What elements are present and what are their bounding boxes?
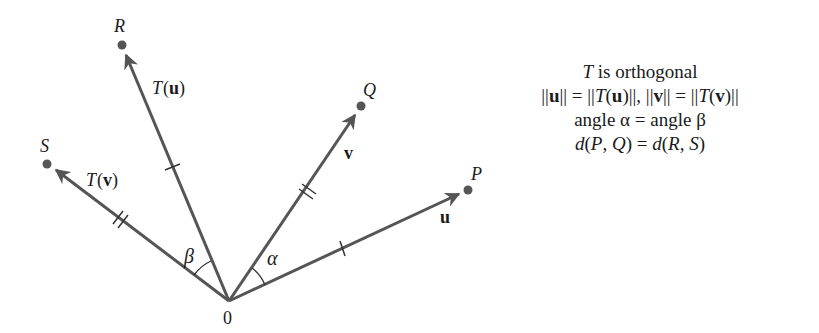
label-alpha: α (267, 247, 278, 269)
label-u: u (440, 207, 450, 227)
label-beta: β (183, 245, 194, 268)
point-Q (357, 102, 366, 111)
caption-line-4: d(P, Q) = d(R, S) (490, 132, 790, 156)
caption-line-3: angle α = angle β (490, 108, 790, 132)
tick-marks (113, 164, 345, 256)
label-v: v (344, 143, 353, 163)
angle-beta-arc (194, 261, 211, 275)
label-S: S (40, 136, 49, 156)
label-origin: 0 (223, 308, 232, 328)
label-T-v: T(v) (86, 170, 118, 191)
label-T-u: T(u) (152, 78, 185, 99)
caption-T: T (582, 61, 593, 82)
point-P (464, 186, 473, 195)
point-S (43, 160, 52, 169)
vector-diagram: P Q R S 0 u v T(u) T(v) β α (0, 0, 819, 333)
point-R (118, 41, 127, 50)
caption-line-1: T is orthogonal (490, 60, 790, 84)
caption-line-2: ||u|| = ||T(u)||, ||v|| = ||T(v)|| (490, 84, 790, 108)
label-P: P (470, 164, 482, 184)
label-R: R (113, 16, 125, 36)
label-Q: Q (363, 80, 376, 100)
angle-alpha-arc (252, 268, 265, 285)
caption-block: T is orthogonal ||u|| = ||T(u)||, ||v|| … (490, 60, 790, 156)
caption-line1-text: is orthogonal (593, 61, 698, 82)
